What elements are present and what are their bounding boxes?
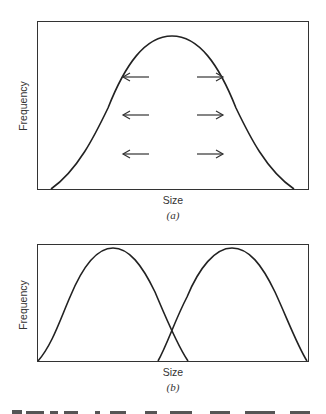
panel-a: Frequency Size (a)	[17, 22, 309, 223]
panel-b-frame	[38, 245, 309, 362]
arrow-right-icon	[197, 150, 223, 158]
cut-off-caption-fragments	[12, 410, 310, 414]
arrow-right-icon	[197, 111, 223, 119]
panel-a-x-label: Size	[163, 194, 184, 206]
panel-b-y-label: Frequency	[17, 279, 29, 329]
arrow-left-icon	[123, 150, 149, 158]
figure-canvas: Frequency Size (a) Frequency Size (b)	[0, 0, 326, 414]
panel-b: Frequency Size (b)	[17, 245, 309, 395]
panel-a-distribution-curve	[51, 36, 294, 189]
panel-b-x-label: Size	[163, 366, 184, 378]
arrow-left-icon	[123, 111, 149, 119]
arrow-right-icon	[197, 73, 223, 81]
arrow-left-icon	[123, 73, 149, 81]
panel-a-caption: (a)	[167, 209, 180, 222]
panel-b-caption: (b)	[167, 381, 180, 394]
panel-a-y-label: Frequency	[17, 80, 29, 130]
arrows-group	[123, 73, 223, 158]
panel-b-right-curve	[158, 248, 307, 361]
